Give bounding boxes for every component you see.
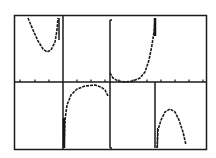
- calculator-graph-screen: [0, 0, 216, 158]
